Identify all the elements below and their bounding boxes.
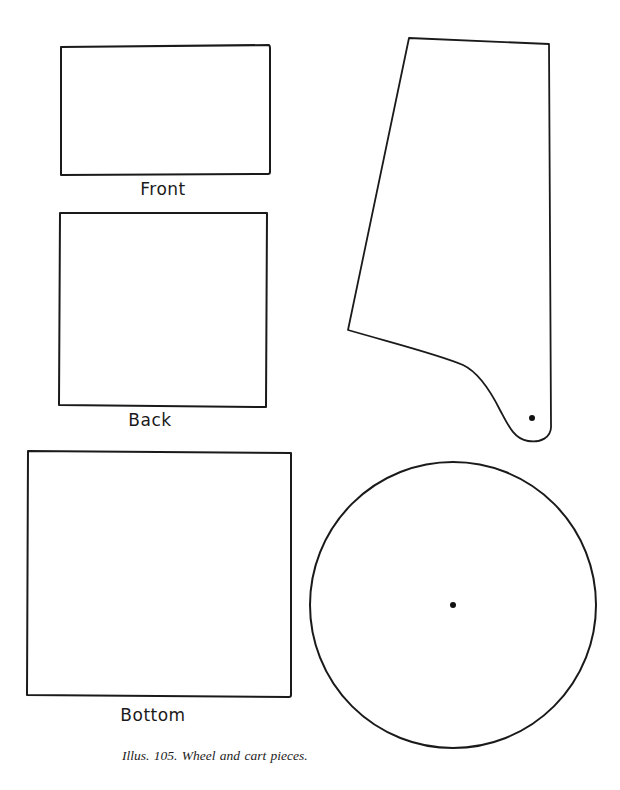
bottom-label: Bottom	[120, 705, 185, 725]
pattern-drawing	[0, 0, 620, 790]
side-axle-hole-icon	[529, 415, 535, 421]
figure-caption: Illus. 105. Wheel and cart pieces.	[122, 748, 308, 764]
bottom-piece-outline	[27, 451, 291, 697]
wheel-center-hole-icon	[450, 602, 456, 608]
front-label: Front	[140, 179, 186, 199]
back-piece-outline	[59, 213, 267, 407]
back-label: Back	[128, 410, 171, 430]
front-piece-outline	[61, 45, 270, 175]
side-piece-outline	[348, 38, 551, 441]
